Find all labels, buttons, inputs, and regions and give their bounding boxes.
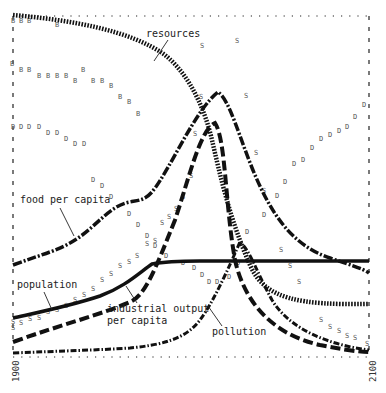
svg-text:D: D <box>337 127 341 135</box>
svg-text:B: B <box>109 82 113 90</box>
svg-text:S: S <box>199 93 203 101</box>
svg-text:S: S <box>109 270 113 278</box>
svg-text:S: S <box>328 323 332 331</box>
svg-text:B: B <box>91 77 95 85</box>
svg-text:S: S <box>91 285 95 293</box>
svg-text:D: D <box>328 131 332 139</box>
svg-text:S: S <box>193 130 197 138</box>
svg-text:D: D <box>310 144 314 152</box>
label-pollution: pollution <box>212 326 266 337</box>
svg-text:S: S <box>319 316 323 324</box>
svg-text:S: S <box>337 327 341 335</box>
svg-text:D: D <box>11 123 15 131</box>
svg-text:D: D <box>19 123 23 131</box>
label-industrial-output-line2: per capita <box>107 315 167 326</box>
svg-text:S: S <box>279 246 283 254</box>
svg-text:D: D <box>319 135 323 143</box>
svg-text:B: B <box>55 72 59 80</box>
svg-text:D: D <box>292 160 296 168</box>
svg-text:S: S <box>254 149 258 157</box>
svg-text:D: D <box>301 156 305 164</box>
svg-text:B: B <box>19 17 23 25</box>
svg-text:S: S <box>82 291 86 299</box>
svg-text:S: S <box>135 252 139 260</box>
svg-text:D: D <box>127 210 131 218</box>
svg-text:D: D <box>82 140 86 148</box>
svg-text:S: S <box>244 92 248 100</box>
svg-text:S: S <box>353 334 357 342</box>
svg-text:D: D <box>46 129 50 137</box>
svg-text:D: D <box>227 273 231 281</box>
svg-text:B: B <box>19 66 23 74</box>
svg-text:B: B <box>81 66 85 74</box>
svg-text:D: D <box>362 101 366 109</box>
svg-text:D: D <box>207 278 211 286</box>
x-tick-1900: 1900 <box>11 360 21 382</box>
pollution-curve <box>13 242 369 353</box>
svg-text:S: S <box>200 42 204 50</box>
svg-text:D: D <box>215 278 219 286</box>
x-tick-2100: 2100 <box>368 360 378 382</box>
svg-text:D: D <box>345 123 349 131</box>
world-model-chart: BBB B BBB BBBB BB BB BBB B DDDD DDD DD D… <box>0 0 386 393</box>
svg-text:B: B <box>73 77 77 85</box>
svg-text:S: S <box>297 278 301 286</box>
svg-text:S: S <box>127 258 131 266</box>
svg-text:B: B <box>100 77 104 85</box>
svg-text:D: D <box>100 182 104 190</box>
svg-text:B: B <box>27 66 31 74</box>
svg-text:D: D <box>145 232 149 240</box>
svg-text:D: D <box>283 178 287 186</box>
svg-text:S: S <box>288 262 292 270</box>
svg-text:S: S <box>167 213 171 221</box>
svg-text:D: D <box>164 252 168 260</box>
svg-text:D: D <box>245 228 249 236</box>
svg-text:D: D <box>262 211 266 219</box>
label-population: population <box>17 279 77 290</box>
svg-text:S: S <box>37 314 41 322</box>
svg-text:S: S <box>100 276 104 284</box>
svg-text:B: B <box>118 93 122 101</box>
industrial-output-curve <box>13 123 369 352</box>
svg-text:S: S <box>153 237 157 245</box>
svg-text:D: D <box>37 123 41 131</box>
label-resources: resources <box>146 28 200 39</box>
svg-text:B: B <box>11 17 15 25</box>
label-industrial-output-line1: industrial output <box>107 303 209 314</box>
svg-text:D: D <box>200 271 204 279</box>
svg-text:S: S <box>160 219 164 227</box>
svg-text:D: D <box>64 135 68 143</box>
svg-text:S: S <box>145 240 149 248</box>
svg-text:S: S <box>19 319 23 327</box>
svg-text:B: B <box>10 60 14 68</box>
svg-text:B: B <box>64 72 68 80</box>
svg-text:B: B <box>37 72 41 80</box>
svg-text:D: D <box>275 192 279 200</box>
svg-text:B: B <box>136 110 140 118</box>
svg-text:S: S <box>235 37 239 45</box>
label-food-per-capita: food per capita <box>20 194 110 205</box>
svg-text:B: B <box>127 98 131 106</box>
svg-text:D: D <box>73 140 77 148</box>
food-per-capita-curve <box>13 92 369 273</box>
svg-text:S: S <box>118 262 122 270</box>
svg-text:D: D <box>27 123 31 131</box>
svg-text:S: S <box>365 340 369 348</box>
svg-text:D: D <box>55 129 59 137</box>
svg-text:D: D <box>91 176 95 184</box>
svg-text:B: B <box>46 72 50 80</box>
svg-text:D: D <box>136 221 140 229</box>
svg-text:D: D <box>192 264 196 272</box>
svg-text:D: D <box>353 113 357 121</box>
svg-text:S: S <box>345 332 349 340</box>
